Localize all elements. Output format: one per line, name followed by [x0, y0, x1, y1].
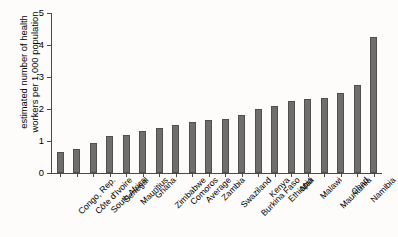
bar[interactable] — [304, 99, 311, 173]
bar[interactable] — [238, 115, 245, 173]
bar-slot — [250, 13, 267, 173]
bar-slot — [283, 13, 300, 173]
bar[interactable] — [57, 152, 64, 173]
plot-area: 012345 — [51, 13, 382, 173]
y-axis-tick: 5 — [47, 13, 51, 14]
x-axis-labels: Congo, Rep.Côte d'IvoireSouth AfricaSene… — [52, 175, 382, 237]
bar-series — [52, 13, 382, 173]
bar[interactable] — [370, 37, 377, 173]
y-axis-tick-label: 2 — [39, 103, 44, 114]
bar-slot — [349, 13, 366, 173]
y-axis-title-line-1: estimated number of health — [18, 15, 29, 129]
bar[interactable] — [123, 135, 130, 173]
y-axis-tick-label: 0 — [39, 167, 44, 178]
bar[interactable] — [73, 149, 80, 173]
bar[interactable] — [337, 93, 344, 173]
bar-slot — [333, 13, 350, 173]
x-axis-label: Namibia — [368, 175, 397, 204]
bar[interactable] — [205, 120, 212, 173]
bar-slot — [85, 13, 102, 173]
bar[interactable] — [189, 122, 196, 173]
y-axis-tick: 0 — [47, 173, 51, 174]
bar-slot — [69, 13, 86, 173]
bar-slot — [300, 13, 317, 173]
bar[interactable] — [271, 106, 278, 173]
bar[interactable] — [354, 85, 361, 173]
bar[interactable] — [139, 131, 146, 173]
bar-slot — [184, 13, 201, 173]
bar-slot — [201, 13, 218, 173]
bar[interactable] — [321, 98, 328, 173]
bar[interactable] — [156, 128, 163, 173]
bar-slot — [168, 13, 185, 173]
y-axis-tick-label: 3 — [39, 71, 44, 82]
bar-slot — [102, 13, 119, 173]
y-axis-tick: 3 — [47, 77, 51, 78]
y-axis-tick: 1 — [47, 141, 51, 142]
y-axis-tick: 2 — [47, 109, 51, 110]
bar-slot — [118, 13, 135, 173]
bar-slot — [151, 13, 168, 173]
bar[interactable] — [255, 109, 262, 173]
bar[interactable] — [222, 119, 229, 173]
bar-slot — [135, 13, 152, 173]
bar-slot — [316, 13, 333, 173]
y-axis-tick-label: 1 — [39, 135, 44, 146]
bar[interactable] — [172, 125, 179, 173]
bar[interactable] — [288, 101, 295, 173]
bar-slot — [366, 13, 383, 173]
y-axis-tick-label: 5 — [39, 7, 44, 18]
x-axis-line — [51, 173, 382, 174]
bar-slot — [267, 13, 284, 173]
bar-slot — [217, 13, 234, 173]
bar-slot — [234, 13, 251, 173]
bar-slot — [52, 13, 69, 173]
bar[interactable] — [90, 143, 97, 173]
y-axis-tick: 4 — [47, 45, 51, 46]
bar[interactable] — [106, 136, 113, 173]
x-axis-label: Malawi — [318, 175, 344, 201]
y-axis-tick-label: 4 — [39, 39, 44, 50]
